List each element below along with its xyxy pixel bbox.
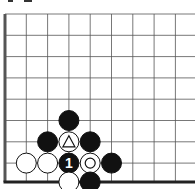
white-stone (59, 172, 79, 189)
black-stone (80, 172, 100, 189)
white-stone (80, 153, 100, 173)
white-stone (38, 153, 58, 173)
label-fragment (8, 0, 13, 2)
black-stone (102, 153, 122, 173)
move-number-label: 1 (65, 155, 73, 171)
black-stone (59, 111, 79, 131)
black-stone (80, 132, 100, 152)
label-fragment (24, 0, 32, 2)
black-stone (38, 132, 58, 152)
white-stone (16, 153, 36, 173)
go-board-diagram: 1 (0, 0, 195, 189)
